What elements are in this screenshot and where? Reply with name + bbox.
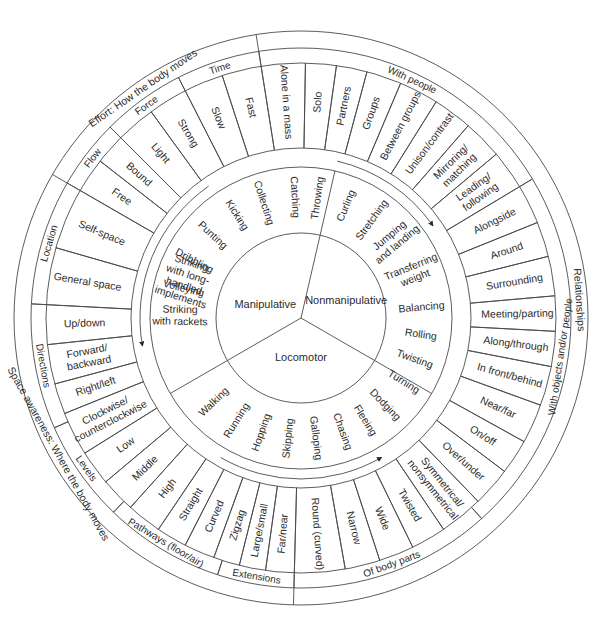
concept-item: Wide xyxy=(373,505,393,532)
subcategory-divider xyxy=(259,51,261,66)
subcategory-divider xyxy=(520,179,533,187)
wheel-labels: Effort: How the body movesSpace awarenes… xyxy=(6,46,589,585)
subcategory-divider xyxy=(67,183,80,191)
skill-item: Walking xyxy=(196,384,231,418)
concept-item: Surrounding xyxy=(485,270,544,291)
concept-divider xyxy=(46,305,131,309)
concept-item: Narrow xyxy=(345,510,365,546)
skill-item: Skipping xyxy=(279,417,295,458)
skill-item: Hopping xyxy=(248,411,272,452)
concept-item: General space xyxy=(53,270,122,293)
subcategory-divider xyxy=(31,304,46,305)
concept-item: Light xyxy=(149,140,173,165)
concept-item: Partners xyxy=(333,85,353,126)
concept-item: Curved xyxy=(201,498,226,534)
skill-item: Catching xyxy=(289,176,303,218)
concept-item: Middle xyxy=(129,452,160,482)
skill-item: Transferringweight xyxy=(382,250,443,293)
concept-item: Meeting/parting xyxy=(481,306,554,319)
skill-item: Turning xyxy=(386,367,422,396)
arrow-icon xyxy=(221,457,382,479)
skill-item: Collecting xyxy=(252,179,278,227)
concept-item: On/off xyxy=(468,422,498,448)
skill-item: Curling xyxy=(333,188,357,223)
concept-item: Zigzag xyxy=(226,508,247,542)
subcategory-label: Flow xyxy=(81,145,103,169)
concept-item: Strong xyxy=(176,116,202,149)
concept-item: Solo xyxy=(310,91,324,113)
concept-item: High xyxy=(155,476,178,501)
skill-item: Balancing xyxy=(398,298,445,314)
category-divider xyxy=(256,35,259,52)
concept-divider xyxy=(331,485,346,569)
skill-item: Throwing xyxy=(308,176,326,221)
concept-item: Straight xyxy=(176,485,205,522)
skill-item: Running xyxy=(220,400,251,440)
concept-item: Around xyxy=(489,239,525,261)
subcategory-divider xyxy=(113,501,123,512)
skill-theme-label: Locomotor xyxy=(275,351,327,363)
skill-item: Rolling xyxy=(404,325,438,341)
concept-item: Alongside xyxy=(471,205,518,236)
subcategory-label: Pathways (floor/air) xyxy=(126,515,206,569)
concept-item: Forward/backward xyxy=(64,340,113,372)
concept-divider xyxy=(261,66,274,150)
concept-item: Alone in a mass xyxy=(279,64,296,139)
concept-item: Fast xyxy=(243,96,259,119)
skill-theme-label: Nonmanipulative xyxy=(305,294,387,306)
subcategory-divider xyxy=(178,77,185,90)
subcategory-divider xyxy=(472,508,482,519)
concept-item: Large/small xyxy=(247,503,269,559)
concept-item: Self-space xyxy=(77,217,128,247)
concept-item: Near/far xyxy=(479,393,519,420)
category-divider xyxy=(52,175,67,184)
subcategory-divider xyxy=(54,422,68,428)
concept-item: Up/down xyxy=(64,316,106,329)
movement-framework-wheel: Effort: How the body movesSpace awarenes… xyxy=(0,0,599,628)
skill-theme-label: Manipulative xyxy=(234,298,296,310)
subcategory-divider xyxy=(218,561,223,575)
concept-item: Free xyxy=(110,185,135,207)
skill-item: Fleeing xyxy=(352,402,381,438)
concept-item: Twisted xyxy=(396,486,424,523)
category-label-relationships: Relationships xyxy=(572,268,588,332)
subcategory-divider xyxy=(110,127,121,138)
concept-divider xyxy=(470,296,555,303)
skill-item: Chasing xyxy=(331,411,356,451)
subcategory-label: Location xyxy=(38,224,59,263)
skill-item: Twisting xyxy=(395,346,435,370)
concept-item: Low xyxy=(114,434,137,455)
concept-item: Slow xyxy=(209,105,229,131)
skill-item: Galloping xyxy=(308,415,325,461)
concept-divider xyxy=(304,63,305,148)
concept-item: Along/through xyxy=(483,333,550,353)
category-label-effort: Effort: How the body moves xyxy=(86,46,199,129)
skill-item: Dodging xyxy=(368,386,404,423)
concept-item: Over/under xyxy=(440,439,488,483)
concept-item: Round (curved) xyxy=(310,497,327,570)
concept-divider xyxy=(294,488,296,573)
concept-divider xyxy=(56,248,138,271)
concept-divider xyxy=(325,65,337,149)
concept-divider xyxy=(471,327,556,331)
skill-item: Kicking xyxy=(224,197,252,232)
concept-item: Far/near xyxy=(274,513,289,554)
concept-item: Groups xyxy=(359,95,382,131)
skill-item: Punting xyxy=(196,218,230,251)
